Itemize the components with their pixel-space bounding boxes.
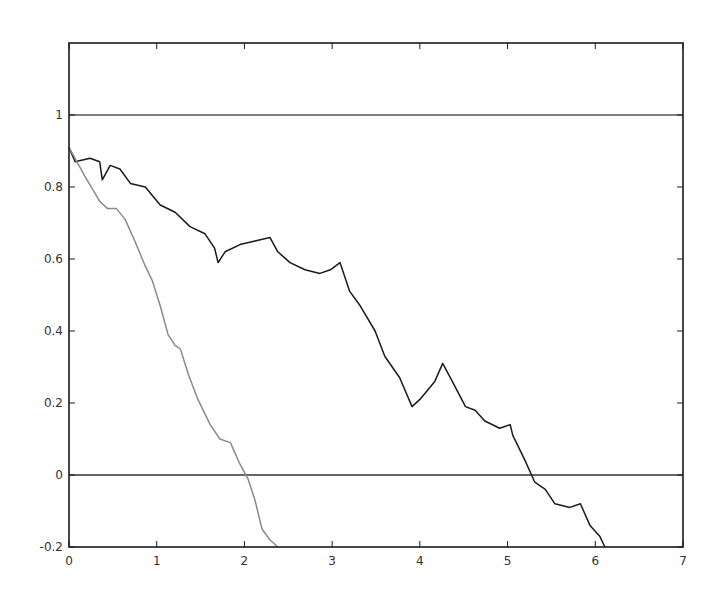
axes-frame bbox=[69, 43, 683, 547]
x-tick-label: 3 bbox=[328, 554, 336, 568]
x-tick-label: 5 bbox=[504, 554, 512, 568]
series-group bbox=[69, 147, 605, 547]
y-tick-label: 0.2 bbox=[44, 396, 63, 410]
x-tick-label: 2 bbox=[241, 554, 249, 568]
y-tick-label: 0.4 bbox=[44, 324, 63, 338]
x-tick-label: 1 bbox=[153, 554, 161, 568]
y-tick-label: 0 bbox=[55, 468, 63, 482]
y-tick-label: 0.8 bbox=[44, 180, 63, 194]
line-chart: 01234567 -0.200.20.40.60.81 bbox=[0, 0, 719, 595]
x-tick-label: 4 bbox=[416, 554, 424, 568]
x-tick-label: 0 bbox=[65, 554, 73, 568]
y-tick-label: -0.2 bbox=[40, 540, 63, 554]
reference-lines bbox=[69, 115, 683, 475]
x-axis-ticks: 01234567 bbox=[65, 43, 687, 568]
x-tick-label: 6 bbox=[591, 554, 599, 568]
x-tick-label: 7 bbox=[679, 554, 687, 568]
y-tick-label: 0.6 bbox=[44, 252, 63, 266]
gray-path-line bbox=[69, 147, 278, 547]
y-axis-ticks: -0.200.20.40.60.81 bbox=[40, 108, 683, 554]
y-tick-label: 1 bbox=[55, 108, 63, 122]
dark-path-line bbox=[69, 147, 605, 547]
